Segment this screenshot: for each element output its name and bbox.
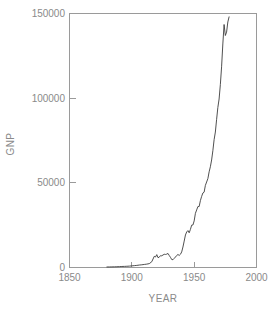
y-tick-label-100000: 100000 — [32, 93, 66, 104]
gnp-year-chart: 0 50000 100000 150000 1850 1900 1950 200… — [0, 0, 277, 315]
plot-frame — [70, 14, 257, 268]
x-tick-labels: 1850 1900 1950 2000 — [58, 272, 268, 283]
x-tick-label-1950: 1950 — [183, 272, 206, 283]
x-tick-marks — [70, 262, 257, 268]
y-tick-marks — [70, 14, 76, 268]
x-tick-label-1850: 1850 — [58, 272, 81, 283]
x-tick-label-2000: 2000 — [245, 272, 268, 283]
plot-svg: 0 50000 100000 150000 1850 1900 1950 200… — [0, 0, 277, 315]
y-axis-title: GNP — [5, 133, 16, 156]
x-tick-label-1900: 1900 — [121, 272, 144, 283]
gnp-data-line — [107, 17, 229, 267]
y-tick-label-50000: 50000 — [37, 177, 65, 188]
x-axis-title: YEAR — [149, 293, 178, 304]
y-tick-labels: 0 50000 100000 150000 — [32, 8, 66, 273]
y-tick-label-150000: 150000 — [32, 8, 66, 19]
